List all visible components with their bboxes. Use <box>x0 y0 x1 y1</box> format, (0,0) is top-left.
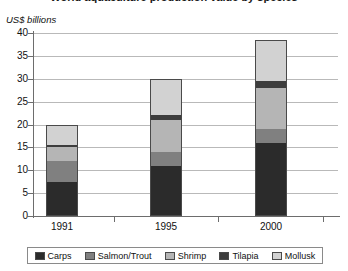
legend-label: Carps <box>48 251 72 261</box>
legend-swatch-icon <box>85 252 95 260</box>
y-tick-mark-35 <box>28 56 33 57</box>
y-tick-mark-10 <box>28 170 33 171</box>
legend-swatch-icon <box>219 252 229 260</box>
bar-segment-1995-tilapia <box>150 115 182 120</box>
x-tick-mark-0 <box>114 217 115 222</box>
legend-label: Salmon/Trout <box>98 251 152 261</box>
y-tick-mark-40 <box>28 33 33 34</box>
bar-segment-2000-salmon-trout <box>255 129 287 143</box>
legend-swatch-icon <box>35 252 45 260</box>
gridline-20 <box>33 125 338 126</box>
y-axis-line <box>33 31 34 218</box>
bar-segment-1991-tilapia <box>46 145 78 147</box>
chart-title: World aquaculture production value by sp… <box>0 0 348 3</box>
y-tick-label-15: 15 <box>4 142 28 152</box>
legend-swatch-icon <box>165 252 175 260</box>
gridline-25 <box>33 102 338 103</box>
bar-segment-1995-mollusk <box>150 79 182 116</box>
gridline-35 <box>33 56 338 57</box>
bar-stack-1991 <box>46 33 78 216</box>
legend-swatch-icon <box>272 252 282 260</box>
y-tick-label-5: 5 <box>4 188 28 198</box>
bar-segment-1995-carps <box>150 166 182 216</box>
gridline-10 <box>33 170 338 171</box>
y-tick-label-40: 40 <box>4 28 28 38</box>
bar-segment-1991-carps <box>46 182 78 216</box>
legend-label: Mollusk <box>285 251 316 261</box>
x-tick-label-1991: 1991 <box>32 221 92 232</box>
bar-segment-1991-shrimp <box>46 147 78 161</box>
legend-item-shrimp[interactable]: Shrimp <box>165 251 207 261</box>
y-tick-label-20: 20 <box>4 120 28 130</box>
y-tick-label-30: 30 <box>4 74 28 84</box>
legend-label: Shrimp <box>178 251 207 261</box>
y-tick-label-25: 25 <box>4 97 28 107</box>
gridline-30 <box>33 79 338 80</box>
stacked-bar-chart: World aquaculture production value by sp… <box>0 0 348 271</box>
bar-stack-2000 <box>255 33 287 216</box>
gridline-15 <box>33 147 338 148</box>
bar-segment-1995-salmon-trout <box>150 152 182 166</box>
gridline-5 <box>33 193 338 194</box>
x-axis-line <box>27 216 340 217</box>
bar-segment-2000-carps <box>255 143 287 216</box>
legend-item-carps[interactable]: Carps <box>35 251 72 261</box>
x-tick-label-1995: 1995 <box>136 221 196 232</box>
bar-segment-1991-mollusk <box>46 125 78 146</box>
plot-area <box>33 33 338 216</box>
y-tick-mark-20 <box>28 125 33 126</box>
y-tick-label-35: 35 <box>4 51 28 61</box>
bar-segment-1995-shrimp <box>150 120 182 152</box>
bar-stack-1995 <box>150 33 182 216</box>
x-tick-mark-1 <box>218 217 219 222</box>
gridline-40 <box>33 33 338 34</box>
x-tick-label-2000: 2000 <box>241 221 301 232</box>
bar-segment-1991-salmon-trout <box>46 161 78 182</box>
x-tick-mark-2 <box>323 217 324 222</box>
legend-label: Tilapia <box>232 251 258 261</box>
legend-item-tilapia[interactable]: Tilapia <box>219 251 258 261</box>
y-tick-mark-30 <box>28 79 33 80</box>
chart-legend: CarpsSalmon/TroutShrimpTilapiaMollusk <box>27 247 323 264</box>
bar-segment-2000-mollusk <box>255 40 287 81</box>
y-tick-mark-0 <box>28 216 33 217</box>
y-tick-label-10: 10 <box>4 165 28 175</box>
legend-item-mollusk[interactable]: Mollusk <box>272 251 316 261</box>
y-tick-mark-5 <box>28 193 33 194</box>
y-tick-label-0: 0 <box>4 211 28 221</box>
y-axis-tick-labels: 0510152025303540 <box>0 0 28 271</box>
bar-segment-2000-tilapia <box>255 81 287 88</box>
legend-item-salmon-trout[interactable]: Salmon/Trout <box>85 251 152 261</box>
y-tick-mark-15 <box>28 147 33 148</box>
y-tick-mark-25 <box>28 102 33 103</box>
bar-segment-2000-shrimp <box>255 88 287 129</box>
